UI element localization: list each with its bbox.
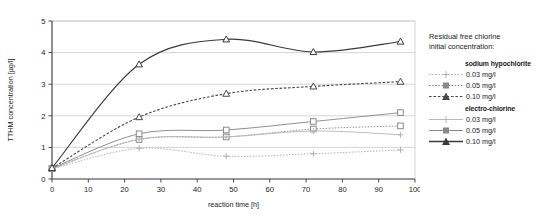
legend-item-electro-005[interactable]: 0.05 mg/l: [429, 125, 557, 136]
legend-group-heading: electro-chlorine: [465, 105, 557, 112]
data-point: [223, 127, 229, 133]
x-tick-label: 80: [338, 185, 346, 194]
legend-swatch-solid-plus-icon: [429, 114, 463, 125]
legend-item-label: 0.05 mg/l: [466, 81, 496, 90]
legend-item-label: 0.03 mg/l: [466, 115, 496, 124]
data-point: [398, 123, 404, 129]
y-tick-label: 1: [41, 143, 45, 152]
tthm-line-chart: 0123450102030405060708090100reaction tim…: [0, 0, 420, 223]
x-tick-label: 10: [84, 185, 92, 194]
data-point: [397, 147, 403, 153]
legend-item-label: 0.05 mg/l: [466, 126, 496, 135]
y-tick-label: 5: [41, 17, 45, 26]
x-tick-label: 100: [409, 185, 420, 194]
data-point: [136, 145, 142, 151]
data-point: [223, 153, 229, 159]
legend-swatch-solid-square-icon: [429, 125, 463, 136]
x-tick-label: 0: [50, 185, 54, 194]
y-tick-label: 2: [41, 112, 45, 121]
series-line: [52, 113, 400, 169]
legend-group-sodium-hypochlorite: sodium hypochlorite 0.03 mg/l: [429, 60, 557, 102]
data-point: [397, 38, 404, 44]
x-tick-label: 20: [120, 185, 128, 194]
series-3: [49, 128, 403, 172]
chart-page: 0123450102030405060708090100reaction tim…: [0, 0, 559, 223]
x-tick-label: 60: [266, 185, 274, 194]
y-tick-label: 3: [41, 80, 45, 89]
legend-title: Residual free chlorine initial concentra…: [429, 32, 557, 51]
x-tick-label: 40: [193, 185, 201, 194]
series-4: [49, 110, 403, 171]
series-line: [52, 39, 400, 168]
x-axis-title: reaction time [h]: [208, 200, 259, 209]
plot-frame: [52, 21, 415, 179]
y-tick-label: 4: [41, 48, 45, 57]
legend-item-nahocl-005[interactable]: 0.05 mg/l: [429, 80, 557, 91]
y-tick-label: 0: [41, 175, 45, 184]
legend-item-nahocl-003[interactable]: 0.03 mg/l: [429, 69, 557, 80]
legend-swatch-dashed-triangle-icon: [429, 91, 463, 102]
legend-group-heading: sodium hypochlorite: [465, 60, 557, 67]
x-tick-label: 70: [302, 185, 310, 194]
data-point: [310, 151, 316, 157]
series-0: [49, 145, 403, 172]
legend-item-label: 0.03 mg/l: [466, 70, 496, 79]
legend-item-label: 0.10 mg/l: [466, 137, 496, 146]
chart-legend: Residual free chlorine initial concentra…: [429, 32, 557, 147]
data-point: [398, 110, 404, 116]
data-point: [397, 132, 403, 138]
legend-item-nahocl-010[interactable]: 0.10 mg/l: [429, 91, 557, 102]
legend-item-label: 0.10 mg/l: [466, 92, 496, 101]
legend-swatch-dotted-plus-icon: [429, 69, 463, 80]
x-tick-label: 90: [374, 185, 382, 194]
legend-group-electro-chlorine: electro-chlorine 0.03 mg/l: [429, 105, 557, 147]
x-tick-label: 30: [157, 185, 165, 194]
legend-swatch-solid-triangle-icon: [429, 136, 463, 147]
data-point: [136, 61, 143, 67]
legend-item-electro-010[interactable]: 0.10 mg/l: [429, 136, 557, 147]
legend-swatch-dotted-square-icon: [429, 80, 463, 91]
y-axis-title: TTHM concentration [µg/l]: [6, 59, 15, 142]
data-point: [311, 119, 317, 125]
chart-area: 0123450102030405060708090100reaction tim…: [0, 0, 420, 223]
legend-item-electro-003[interactable]: 0.03 mg/l: [429, 114, 557, 125]
data-point: [136, 131, 142, 137]
x-tick-label: 50: [229, 185, 237, 194]
